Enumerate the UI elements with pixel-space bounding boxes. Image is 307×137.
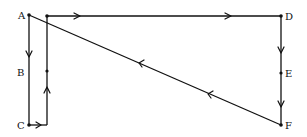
node-c xyxy=(27,123,31,127)
node-e xyxy=(279,71,282,74)
node-mid-right-vertical xyxy=(45,69,48,72)
node-a xyxy=(27,13,31,17)
node-f xyxy=(279,123,283,127)
edge-f-a xyxy=(29,15,281,125)
label-a: A xyxy=(17,10,26,21)
label-e: E xyxy=(285,68,292,79)
circuit-loop-diagram: A B C D E F xyxy=(0,0,307,137)
label-c: C xyxy=(17,120,25,131)
node-d xyxy=(279,14,283,18)
label-d: D xyxy=(285,11,293,22)
node-top-junction xyxy=(45,14,49,18)
label-f: F xyxy=(285,120,292,131)
label-b: B xyxy=(17,67,24,78)
